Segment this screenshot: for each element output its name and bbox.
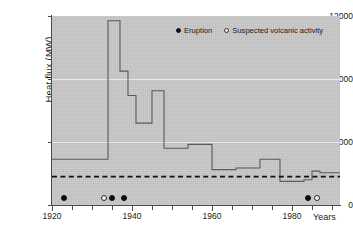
legend-label-suspected: Suspected volcanic activity xyxy=(232,27,323,35)
x-tick-mark-1925 xyxy=(72,206,73,210)
series-layer xyxy=(52,16,340,205)
x-axis-title: Years xyxy=(313,212,336,222)
event-marker-eruption-1938 xyxy=(121,195,127,201)
x-tick-label-1980: 1980 xyxy=(276,212,308,221)
event-marker-suspected-1986 xyxy=(314,195,320,201)
x-tick-mark-1945 xyxy=(152,206,153,210)
filled-circle-icon xyxy=(176,28,181,33)
x-tick-label-1920: 1920 xyxy=(36,212,68,221)
x-axis-line xyxy=(51,205,341,206)
x-tick-mark-1985 xyxy=(312,206,313,210)
legend-entry-eruption: Eruption xyxy=(176,27,212,35)
x-tick-mark-1970 xyxy=(252,206,253,210)
heat-flux-chart: Heat flux (MW) 12000 8000 4000 0 Erup xyxy=(0,0,353,240)
x-tick-mark-1955 xyxy=(192,206,193,210)
event-marker-eruption-1935 xyxy=(109,195,115,201)
event-marker-suspected-1933 xyxy=(101,195,107,201)
y-axis-line xyxy=(51,15,52,206)
x-tick-label-1960: 1960 xyxy=(196,212,228,221)
plot-area: Eruption Suspected volcanic activity xyxy=(52,16,340,205)
x-tick-mark-1930 xyxy=(92,206,93,210)
x-tick-mark-1990 xyxy=(332,206,333,210)
x-tick-mark-1935 xyxy=(112,206,113,210)
legend-label-eruption: Eruption xyxy=(184,27,212,35)
x-tick-mark-1965 xyxy=(232,206,233,210)
legend-entry-suspected: Suspected volcanic activity xyxy=(224,27,323,35)
x-tick-label-1940: 1940 xyxy=(116,212,148,221)
open-circle-icon xyxy=(224,28,229,33)
heat-flux-step-line xyxy=(52,21,340,182)
legend: Eruption Suspected volcanic activity xyxy=(176,27,323,35)
event-marker-eruption-1923 xyxy=(61,195,67,201)
x-tick-mark-1950 xyxy=(172,206,173,210)
x-tick-mark-1975 xyxy=(272,206,273,210)
event-marker-eruption-1984 xyxy=(305,195,311,201)
